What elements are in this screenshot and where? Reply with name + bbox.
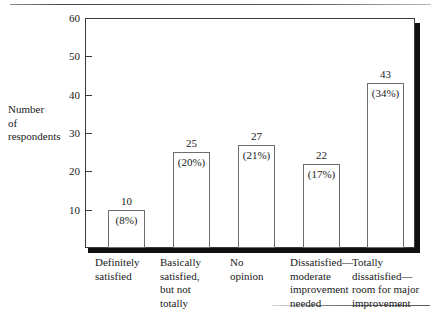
x-axis-label-2-line-3: but not <box>160 283 201 297</box>
page-top-rule <box>10 4 431 5</box>
y-axis-tick-label-text: 10 <box>58 205 80 216</box>
x-axis-label-1-line-2: satisfied <box>95 270 140 284</box>
y-axis-tick-label-text: 30 <box>58 128 80 139</box>
plot-frame-shadow-right <box>415 23 420 253</box>
x-axis-label-5-line-2: dissatisfied— <box>352 270 419 284</box>
bar-percent-label-3: (21%) <box>232 150 281 161</box>
y-axis-tick-40 <box>85 95 92 96</box>
y-axis-title-line-1: Number <box>8 103 80 117</box>
y-axis-tick-label-text: 50 <box>58 51 80 62</box>
x-axis-label-5-line-3: room for major <box>352 283 419 297</box>
bar-value-label-5: 43 <box>357 69 414 80</box>
x-axis-label-4-line-3: improvement <box>290 283 353 297</box>
x-axis-label-4-line-4: needed <box>290 297 353 311</box>
x-axis-label-5-line-4: improvement <box>352 297 419 311</box>
bar-value-label-2: 25 <box>163 138 220 149</box>
y-axis-tick-label-text: 20 <box>58 166 80 177</box>
bar-percent-label-1: (8%) <box>102 215 151 226</box>
x-axis-label-3-line-2: opinion <box>230 270 264 284</box>
y-axis-tick-20 <box>85 171 92 172</box>
bar-5[interactable] <box>367 83 404 248</box>
x-axis-label-4: Dissatisfied—moderateimprovementneeded <box>290 256 353 310</box>
bar-value-label-3: 27 <box>228 131 285 142</box>
y-axis-tick-10 <box>85 210 92 211</box>
y-axis-tick-label-60: 60 <box>58 13 80 24</box>
y-axis-tick-label-40: 40 <box>58 90 80 101</box>
y-axis-tick-50 <box>85 56 92 57</box>
y-axis-tick-label-30: 30 <box>58 128 80 139</box>
x-axis-label-3-line-1: No <box>230 256 264 270</box>
y-axis-tick-label-text: 40 <box>58 90 80 101</box>
y-axis-tick-label-20: 20 <box>58 166 80 177</box>
bar-percent-label-4: (17%) <box>297 169 346 180</box>
bar-value-label-4: 22 <box>293 150 350 161</box>
x-axis-label-2-line-1: Basically <box>160 256 201 270</box>
plot-frame-shadow-bottom <box>88 248 420 253</box>
y-axis-tick-label-text: 60 <box>58 13 80 24</box>
x-axis-label-5: Totallydissatisfied—room for majorimprov… <box>352 256 419 310</box>
y-axis-tick-label-10: 10 <box>58 205 80 216</box>
x-axis-label-2: Basicallysatisfied,but nottotally <box>160 256 201 310</box>
bar-percent-label-5: (34%) <box>361 88 410 99</box>
x-axis-label-5-line-1: Totally <box>352 256 419 270</box>
bar-value-label-1: 10 <box>98 196 155 207</box>
x-axis-label-4-line-1: Dissatisfied— <box>290 256 353 270</box>
y-axis-tick-30 <box>85 133 92 134</box>
x-axis-label-3: Noopinion <box>230 256 264 283</box>
y-axis-tick-label-50: 50 <box>58 51 80 62</box>
bar-percent-label-2: (20%) <box>167 157 216 168</box>
x-axis-label-2-line-4: totally <box>160 297 201 311</box>
x-axis-label-4-line-2: moderate <box>290 270 353 284</box>
x-axis-label-2-line-2: satisfied, <box>160 270 201 284</box>
y-axis-tick-60 <box>85 18 92 19</box>
x-axis-label-1: Definitelysatisfied <box>95 256 140 283</box>
x-axis-label-1-line-1: Definitely <box>95 256 140 270</box>
